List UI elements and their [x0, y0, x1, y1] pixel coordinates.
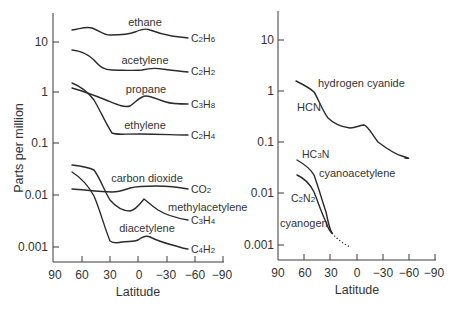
y-tick-label: 0.001 [18, 240, 48, 254]
label-acetylene: acetylene [121, 54, 168, 66]
formula-hc3n: HC3N [302, 148, 329, 160]
y-tick-label: 0.1 [31, 136, 48, 150]
x-axis-title: Latitude [116, 285, 161, 299]
chart-figure: 10 1 0.1 0.01 0.001 90 60 30 0 −30 −60 −… [0, 0, 460, 309]
formula-c4h2: C4H2 [191, 243, 216, 255]
x-tick-label: −30 [373, 266, 394, 280]
label-cyanogen: cyanogen [280, 217, 328, 229]
x-tick-label: 0 [354, 266, 361, 280]
curve-ethane [72, 27, 188, 38]
label-co2: carbon dioxide [111, 172, 183, 184]
y-tick-label: 0.1 [257, 135, 274, 149]
curve-hcn [296, 81, 409, 158]
formula-c3h8: C3H8 [191, 98, 216, 110]
y-axis-title: Parts per million [12, 103, 26, 193]
x-tick-label: −60 [185, 268, 206, 282]
y-tick-label: 0.01 [25, 188, 49, 202]
y-tick-label: 1 [41, 85, 48, 99]
label-propane: propane [126, 83, 166, 95]
left-x-ticks: 90 60 30 0 −30 −60 −90 [48, 256, 232, 282]
label-ethylene: ethylene [124, 119, 166, 131]
formula-c2n2: C2N2 [291, 192, 316, 204]
y-tick-label: 10 [261, 33, 275, 47]
formula-c2h6: C2H6 [191, 32, 216, 44]
y-tick-label: 0.001 [244, 238, 274, 252]
x-tick-label: 30 [324, 266, 338, 280]
x-tick-label: −90 [424, 266, 445, 280]
x-tick-label: 0 [136, 268, 143, 282]
x-axis-title: Latitude [335, 283, 380, 297]
label-methylacetylene: methylacetylene [168, 201, 248, 213]
right-x-ticks: 90 60 30 0 −30 −60 −90 [271, 254, 444, 280]
label-diacetylene: diacetylene [119, 222, 175, 234]
x-tick-label: 60 [298, 266, 312, 280]
x-tick-label: 30 [103, 268, 117, 282]
y-tick-label: 0.01 [251, 186, 275, 200]
x-tick-label: −30 [156, 268, 177, 282]
label-hcn-formula: HCN [297, 101, 321, 113]
label-ethane: ethane [128, 16, 162, 28]
x-tick-label: 90 [271, 266, 285, 280]
label-hcn: hydrogen cyanide [318, 77, 405, 89]
x-tick-label: 90 [48, 268, 62, 282]
y-tick-label: 10 [35, 35, 49, 49]
formula-co2: CO2 [191, 183, 212, 195]
formula-c3h4: C3H4 [191, 214, 216, 226]
x-tick-label: −60 [399, 266, 420, 280]
curve-cyanogen-extrapolated [332, 233, 350, 247]
right-panel: 10 1 0.1 0.01 0.001 90 60 30 0 −30 −60 −… [244, 11, 445, 297]
formula-c2h2: C2H2 [191, 65, 216, 77]
x-tick-label: −90 [212, 268, 233, 282]
label-cyanoacetylene: cyanoacetylene [319, 167, 395, 179]
y-tick-label: 1 [267, 84, 274, 98]
left-panel: 10 1 0.1 0.01 0.001 90 60 30 0 −30 −60 −… [12, 13, 248, 299]
x-tick-label: 60 [75, 268, 89, 282]
formula-c2h4: C2H4 [191, 129, 216, 141]
